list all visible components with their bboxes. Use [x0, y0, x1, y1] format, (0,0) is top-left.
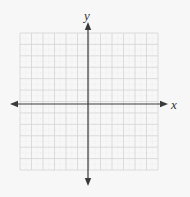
- y-axis-label: y: [82, 8, 90, 23]
- x-axis-label: x: [170, 97, 177, 112]
- coordinate-plane: y x: [0, 0, 190, 197]
